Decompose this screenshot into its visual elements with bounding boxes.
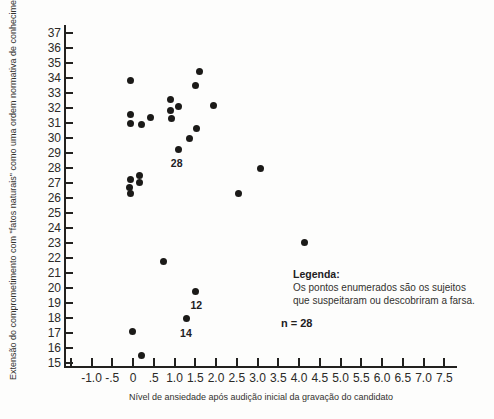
y-tick-label: 29 <box>35 146 61 160</box>
x-tick <box>91 358 93 366</box>
x-tick <box>423 358 425 366</box>
data-point <box>127 77 134 84</box>
y-tick-label: 36 <box>35 41 61 55</box>
data-point-label: 14 <box>175 327 197 339</box>
y-tick <box>66 227 73 229</box>
y-tick-label: 26 <box>35 191 61 205</box>
y-tick <box>66 47 73 49</box>
y-tick-label: 27 <box>35 176 61 190</box>
y-tick <box>66 92 73 94</box>
y-tick <box>66 332 73 334</box>
y-tick-label: 20 <box>35 281 61 295</box>
y-tick-label: 18 <box>35 311 61 325</box>
y-tick-label: 21 <box>35 266 61 280</box>
y-tick-label: 37 <box>35 26 61 40</box>
y-tick <box>66 122 73 124</box>
y-tick <box>66 152 73 154</box>
y-tick <box>66 107 73 109</box>
legend: Legenda: Os pontos enumerados são os suj… <box>293 268 489 307</box>
x-tick <box>277 358 279 366</box>
data-point <box>193 125 200 132</box>
x-axis-line <box>64 366 457 368</box>
y-tick-label: 17 <box>35 326 61 340</box>
x-tick <box>153 358 155 366</box>
x-tick <box>319 358 321 366</box>
x-tick <box>402 358 404 366</box>
data-point <box>127 190 134 197</box>
y-tick <box>66 77 73 79</box>
x-tick <box>340 358 342 366</box>
y-tick <box>66 347 73 349</box>
x-tick <box>381 358 383 366</box>
data-point <box>192 82 199 89</box>
x-axis-title: Nível de ansiedade após audição inicial … <box>61 392 461 402</box>
legend-line-1: Os pontos enumerados são os sujeitos <box>293 281 489 294</box>
y-tick-label: 23 <box>35 236 61 250</box>
data-point <box>301 239 308 246</box>
scatter-figure: Extensão do comprometimento com "fatos n… <box>0 0 494 419</box>
data-point <box>136 179 143 186</box>
y-tick-label: 34 <box>35 71 61 85</box>
y-tick-label: 28 <box>35 161 61 175</box>
y-tick-label: 35 <box>35 56 61 70</box>
y-tick <box>66 242 73 244</box>
x-tick <box>215 358 217 366</box>
y-tick <box>66 287 73 289</box>
x-tick <box>174 358 176 366</box>
data-point <box>167 96 174 103</box>
data-point <box>138 352 145 359</box>
y-tick-label: 16 <box>35 341 61 355</box>
legend-title: Legenda: <box>293 268 489 281</box>
data-point <box>147 114 154 121</box>
x-tick <box>132 358 134 366</box>
data-point <box>192 288 199 295</box>
x-tick <box>111 358 113 366</box>
x-tick <box>298 358 300 366</box>
y-tick <box>66 257 73 259</box>
data-point <box>127 111 134 118</box>
y-tick-label: 15 <box>35 356 61 370</box>
y-tick-label: 33 <box>35 86 61 100</box>
x-tick <box>257 358 259 366</box>
x-tick <box>236 358 238 366</box>
plot-area: 3736353433323130292827262524232221201918… <box>0 0 494 419</box>
y-tick <box>66 182 73 184</box>
data-point <box>127 120 134 127</box>
data-point <box>186 135 193 142</box>
data-point <box>235 190 242 197</box>
y-tick-label: 22 <box>35 251 61 265</box>
x-tick <box>194 358 196 366</box>
legend-line-2: que suspeitaram ou descobriram a farsa. <box>293 294 489 307</box>
y-tick-label: 31 <box>35 116 61 130</box>
data-point <box>210 102 217 109</box>
y-tick-label: 25 <box>35 206 61 220</box>
data-point <box>257 165 264 172</box>
y-tick <box>66 62 73 64</box>
data-point-label: 12 <box>185 299 207 311</box>
data-point <box>196 68 203 75</box>
x-tick-label: 7.5 <box>429 371 459 385</box>
data-point <box>160 258 167 265</box>
sample-size-label: n = 28 <box>281 317 313 329</box>
y-tick <box>66 212 73 214</box>
x-tick <box>70 358 72 366</box>
data-point <box>168 115 175 122</box>
data-point <box>129 328 136 335</box>
y-tick <box>66 197 73 199</box>
y-tick <box>66 167 73 169</box>
y-tick <box>66 317 73 319</box>
y-tick <box>66 302 73 304</box>
data-point <box>175 103 182 110</box>
y-tick-label: 30 <box>35 131 61 145</box>
data-point <box>167 107 174 114</box>
x-tick <box>443 358 445 366</box>
y-tick <box>66 137 73 139</box>
data-point <box>175 146 182 153</box>
y-tick-label: 24 <box>35 221 61 235</box>
x-tick <box>360 358 362 366</box>
data-point <box>136 172 143 179</box>
data-point <box>183 315 190 322</box>
data-point <box>127 176 134 183</box>
y-tick <box>66 32 73 34</box>
data-point-label: 28 <box>166 157 188 169</box>
